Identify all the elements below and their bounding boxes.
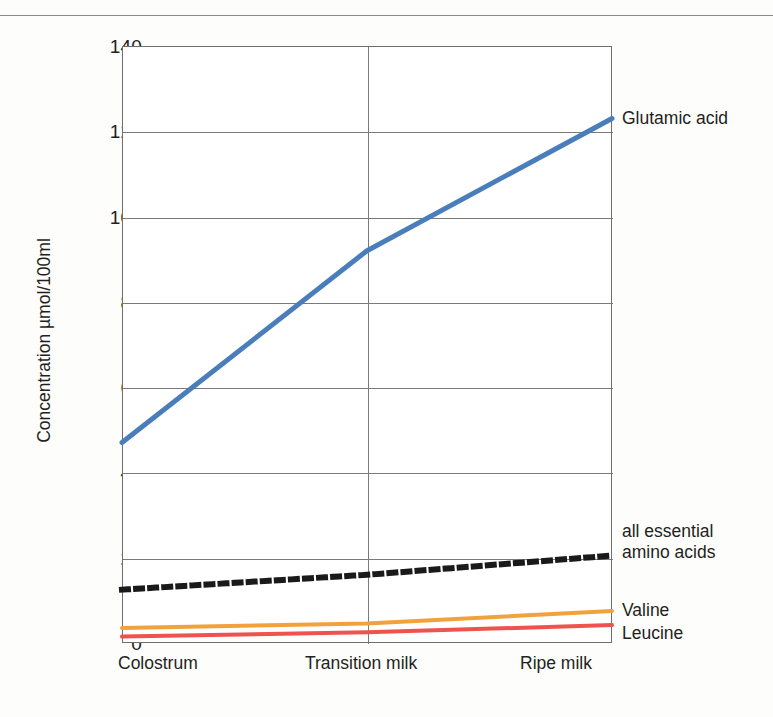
series-label-glutamic-acid: Glutamic acid (622, 108, 728, 129)
series-label-valine: Valine (622, 600, 669, 621)
series-line-glutamic-acid (122, 118, 612, 442)
x-axis-tick-label: Transition milk (305, 655, 417, 673)
series-label-leucine: Leucine (622, 623, 683, 644)
series-label-all-essential-amino-acids: all essentialamino acids (622, 521, 715, 563)
x-axis-tick-label: Colostrum (118, 655, 198, 673)
chart-page: Concentration µmol/100ml 140120100806040… (0, 0, 773, 717)
x-axis-tick-label: Ripe milk (520, 655, 592, 673)
series-label-line-2: amino acids (622, 542, 715, 562)
series-line-all-essential-amino-acids (122, 556, 612, 590)
series-label-line-1: all essential (622, 521, 713, 541)
